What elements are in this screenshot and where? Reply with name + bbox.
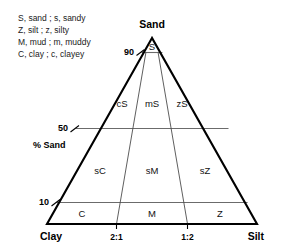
tick-label-10: 10 bbox=[39, 197, 49, 207]
apex-label-sand: Sand bbox=[139, 18, 165, 30]
apex-label-clay: Clay bbox=[40, 230, 62, 242]
field-label-zs: zS bbox=[176, 98, 187, 109]
field-label-sz: sZ bbox=[200, 165, 211, 176]
field-label-s: S bbox=[149, 41, 155, 52]
field-label-sc: sC bbox=[94, 165, 106, 176]
field-label-cs: cS bbox=[116, 98, 127, 109]
divider-ratio-2to1 bbox=[117, 53, 146, 225]
tick-label-90: 90 bbox=[124, 47, 134, 57]
field-label-c: C bbox=[79, 208, 86, 219]
ratio-label-2to1: 2:1 bbox=[110, 232, 123, 242]
vertical-dividers bbox=[117, 53, 188, 225]
field-label-z: Z bbox=[217, 208, 223, 219]
field-label-m: M bbox=[148, 208, 156, 219]
tick-label-50: 50 bbox=[58, 123, 68, 133]
legend-line-mud: M, mud ; m, muddy bbox=[18, 37, 91, 47]
axis-label-percent-sand: % Sand bbox=[33, 140, 66, 150]
apex-label-silt: Silt bbox=[248, 230, 265, 242]
triangle-outline bbox=[47, 38, 257, 224]
legend-line-clay: C, clay ; c, clayey bbox=[18, 49, 85, 59]
legend-line-sand: S, sand ; s, sandy bbox=[18, 13, 86, 23]
horizontal-dividers bbox=[56, 53, 247, 203]
ratio-label-1to2: 1:2 bbox=[181, 232, 194, 242]
divider-ratio-1to2 bbox=[158, 53, 187, 225]
legend: S, sand ; s, sandy Z, silt ; z, silty M,… bbox=[18, 13, 91, 59]
field-label-ms: mS bbox=[145, 98, 159, 109]
ternary-diagram: S, sand ; s, sandy Z, silt ; z, silty M,… bbox=[0, 0, 286, 252]
field-label-sm: sM bbox=[146, 165, 159, 176]
ternary-diagram-canvas: S, sand ; s, sandy Z, silt ; z, silty M,… bbox=[0, 0, 286, 252]
legend-line-silt: Z, silt ; z, silty bbox=[18, 25, 70, 35]
